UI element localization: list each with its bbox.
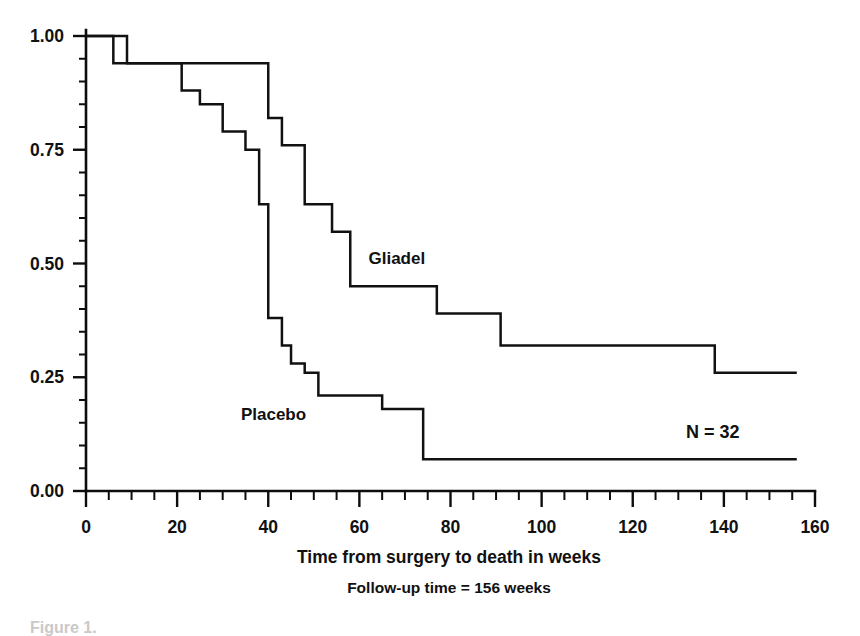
y-tick-label: 1.00 [30,26,64,46]
figure-caption: Figure 1. [30,619,97,636]
x-axis-tick-labels: 020406080100120140160 [81,517,830,537]
x-axis-title: Time from surgery to death in weeks [297,547,601,567]
curve-gliadel [86,36,797,373]
curve-placebo [86,36,797,459]
x-tick-label: 160 [800,517,829,537]
series-label-gliadel: Gliadel [368,249,425,268]
km-figure: 0.000.250.500.751.00 0204060801001201401… [0,0,860,636]
y-tick-label: 0.25 [30,367,64,387]
y-axis-tick-labels: 0.000.250.500.751.00 [30,26,64,501]
x-tick-label: 140 [709,517,738,537]
x-tick-label: 80 [441,517,461,537]
x-tick-label: 100 [527,517,556,537]
km-chart-svg: 0.000.250.500.751.00 0204060801001201401… [0,0,860,636]
series-group [86,36,797,459]
x-tick-label: 0 [81,517,91,537]
x-axis-ticks [86,491,815,507]
sample-size-annotation: N = 32 [686,422,740,442]
y-tick-label: 0.00 [30,481,64,501]
y-tick-label: 0.75 [30,140,64,160]
series-label-placebo: Placebo [241,405,306,424]
x-tick-label: 40 [259,517,279,537]
followup-subtitle: Follow-up time = 156 weeks [347,579,551,596]
x-tick-label: 120 [618,517,647,537]
x-tick-label: 20 [167,517,187,537]
y-tick-label: 0.50 [30,254,64,274]
x-tick-label: 60 [350,517,370,537]
y-axis-ticks [73,36,86,491]
